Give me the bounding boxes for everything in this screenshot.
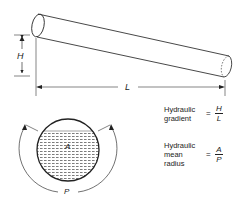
cross-section — [19, 119, 117, 192]
length-label: L — [125, 82, 130, 92]
pipe — [30, 13, 232, 77]
numerator: A — [216, 145, 221, 154]
equation-name-line: Hydraulic — [164, 105, 195, 114]
denominator: L — [217, 114, 221, 123]
length-dimension — [36, 38, 225, 96]
equation-name-line: gradient — [164, 114, 195, 123]
diagram-canvas — [0, 0, 239, 206]
numerator: H — [216, 104, 222, 113]
equation-name-line: Hydraulic — [164, 141, 195, 150]
area-label: A — [65, 142, 70, 152]
fraction: H L — [214, 104, 224, 123]
perimeter-label: P — [64, 187, 69, 197]
equation-name-line: mean — [164, 150, 195, 159]
denominator: P — [216, 155, 221, 164]
equation-name-line: radius — [164, 159, 195, 168]
equals-sign: = — [206, 150, 211, 159]
equals-sign: = — [206, 109, 211, 118]
fraction: A P — [214, 145, 224, 164]
height-label: H — [17, 51, 24, 61]
